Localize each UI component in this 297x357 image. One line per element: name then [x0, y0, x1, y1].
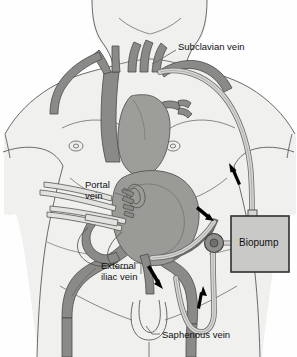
diagram-canvas [0, 0, 297, 357]
pump-head[interactable] [205, 234, 224, 253]
label-saphenous-vein: Saphenous vein [162, 330, 230, 341]
label-biopump: Biopump [239, 238, 278, 249]
label-portal-vein-line2: vein [85, 191, 110, 202]
label-external-iliac-vein-line2: iliac vein [101, 272, 137, 283]
label-portal-vein: Portal vein [85, 180, 110, 201]
anatomical-diagram: Subclavian vein Portal vein External ili… [0, 0, 297, 357]
label-subclavian-vein: Subclavian vein [178, 42, 245, 53]
label-external-iliac-vein-line1: External [101, 261, 137, 272]
label-external-iliac-vein: External iliac vein [101, 261, 137, 282]
label-portal-vein-line1: Portal [85, 180, 110, 191]
